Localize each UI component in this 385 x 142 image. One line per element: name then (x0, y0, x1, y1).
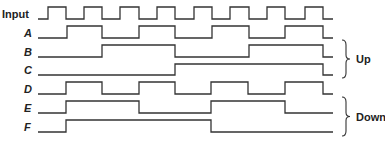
brace-up (342, 40, 350, 78)
signal-label-input: Input (2, 8, 29, 20)
signal-label-e: E (24, 102, 32, 114)
waveform-e (38, 101, 333, 113)
timing-diagram: InputABCDEF UpDown (0, 0, 385, 142)
waveforms (38, 7, 333, 132)
signal-label-f: F (24, 121, 31, 133)
signal-label-a: A (23, 27, 32, 39)
waveform-d (38, 82, 333, 94)
waveform-b (38, 45, 333, 57)
waveform-a (38, 26, 333, 38)
signal-label-d: D (24, 83, 32, 95)
brace-down (342, 97, 350, 136)
group-braces: UpDown (342, 40, 385, 136)
waveform-c (38, 64, 333, 75)
group-label-up: Up (356, 53, 371, 65)
signal-label-c: C (24, 64, 33, 76)
waveform-input (38, 7, 333, 19)
waveform-f (38, 120, 333, 132)
group-label-down: Down (356, 111, 385, 123)
signal-label-b: B (24, 46, 32, 58)
signal-labels: InputABCDEF (2, 8, 33, 133)
